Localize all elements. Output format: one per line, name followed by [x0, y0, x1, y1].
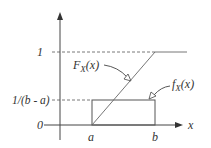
x-tick-a: a	[88, 130, 94, 144]
uniform-distribution-diagram: 1 1/(b - a) 0 a b x FX(x) fX(x)	[0, 0, 211, 148]
x-axis-label: x	[187, 118, 194, 132]
cdf-pointer-arrow	[104, 65, 127, 77]
y-axis-arrow-icon	[57, 12, 63, 20]
cdf-ramp	[92, 52, 155, 125]
pdf-label: fX(x)	[172, 77, 194, 93]
y-tick-pdf-height: 1/(b - a)	[12, 94, 50, 107]
y-tick-one: 1	[37, 45, 43, 59]
pdf-rectangle	[92, 100, 155, 125]
x-tick-b: b	[152, 130, 158, 144]
pdf-pointer-arrow	[154, 86, 170, 95]
y-tick-zero: 0	[37, 118, 43, 132]
cdf-label: FX(x)	[72, 58, 99, 74]
x-axis-arrow-icon	[175, 122, 183, 128]
pdf-pointer-arrowhead-icon	[149, 92, 156, 99]
